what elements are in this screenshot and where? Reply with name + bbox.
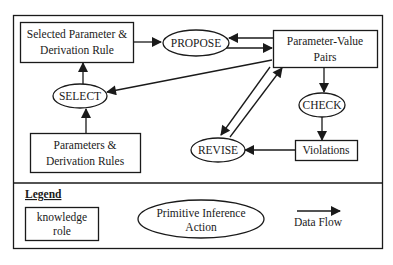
legend-inference-action-line2: Action — [185, 221, 217, 233]
node-selected-parameter-line2: Derivation Rule — [40, 44, 114, 56]
legend-inference-action: Primitive Inference Action — [138, 200, 264, 238]
node-pvp-line2: Pairs — [314, 51, 338, 63]
diagram-canvas: Selected Parameter & Derivation Rule PRO… — [0, 0, 393, 265]
legend-knowledge-role-line1: knowledge — [37, 211, 87, 224]
node-select: SELECT — [53, 84, 107, 108]
node-params-line2: Derivation Rules — [46, 155, 125, 167]
node-check-label: CHECK — [303, 99, 343, 111]
node-violations: Violations — [296, 141, 358, 161]
node-revise: REVISE — [191, 138, 245, 162]
node-revise-label: REVISE — [198, 144, 238, 156]
node-propose-label: PROPOSE — [171, 37, 222, 49]
node-violations-label: Violations — [302, 144, 350, 156]
legend-knowledge-role: knowledge role — [26, 208, 99, 241]
node-parameter-value-pairs: Parameter-Value Pairs — [274, 31, 378, 68]
edge-pvp-to-select — [107, 60, 272, 92]
legend-knowledge-role-line2: role — [53, 225, 71, 237]
legend-data-flow-label: Data Flow — [294, 216, 343, 228]
node-params-line1: Parameters & — [54, 139, 117, 151]
node-check: CHECK — [299, 93, 345, 117]
node-pvp-line1: Parameter-Value — [287, 35, 363, 47]
edge-pvp-to-revise — [221, 67, 270, 135]
node-select-label: SELECT — [59, 90, 101, 102]
node-selected-parameter: Selected Parameter & Derivation Rule — [21, 23, 134, 63]
legend-data-flow: Data Flow — [294, 211, 343, 228]
legend-inference-action-line1: Primitive Inference — [156, 207, 245, 219]
node-parameters-derivation-rules: Parameters & Derivation Rules — [31, 134, 141, 173]
node-selected-parameter-line1: Selected Parameter & — [27, 28, 127, 40]
node-propose: PROPOSE — [163, 30, 229, 56]
edge-revise-to-pvp — [230, 68, 282, 137]
legend-title: Legend — [25, 188, 62, 201]
